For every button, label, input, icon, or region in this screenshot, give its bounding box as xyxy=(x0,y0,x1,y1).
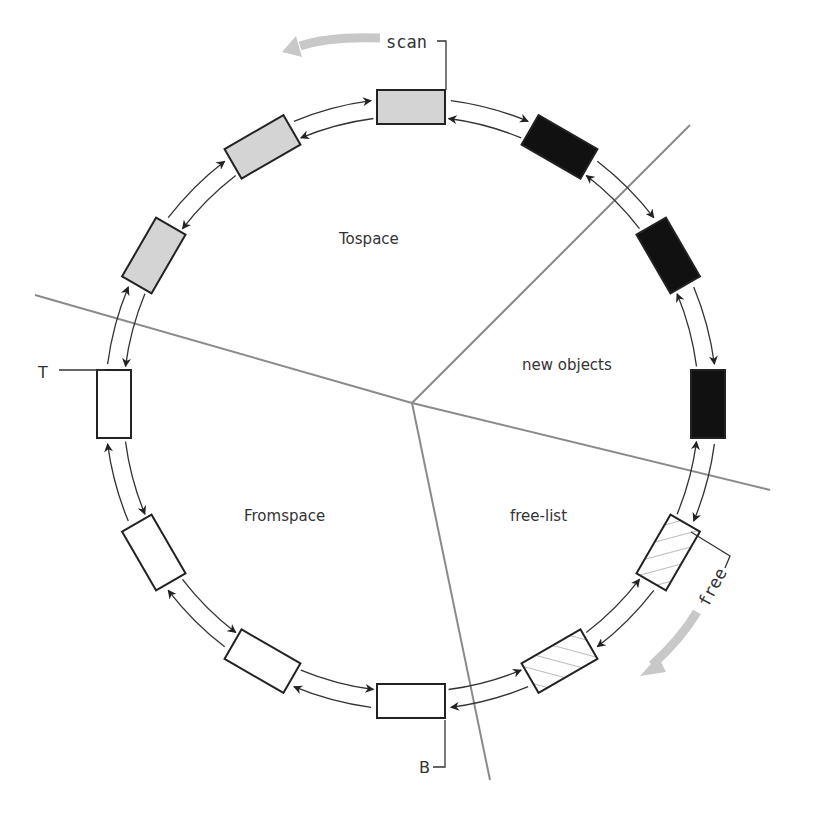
block-white-8 xyxy=(122,515,185,591)
link-arrow xyxy=(694,287,715,364)
scan-pointer: scan xyxy=(282,32,446,90)
free-label: free xyxy=(694,564,731,610)
region-label-free-list: free-list xyxy=(510,507,567,525)
region-label-tospace: Tospace xyxy=(338,230,399,248)
link-arrow xyxy=(183,579,236,632)
link-arrow xyxy=(597,590,654,647)
block-grey-10 xyxy=(122,218,185,294)
link-arrow xyxy=(183,176,236,229)
block-grey-11 xyxy=(225,115,301,178)
link-arrow xyxy=(677,442,696,515)
divider-free-fromspace xyxy=(412,403,490,780)
top-label: T xyxy=(37,363,48,382)
link-arrow xyxy=(126,442,145,515)
block-white-7 xyxy=(225,629,301,692)
link-arrow xyxy=(301,670,374,689)
block-white-9 xyxy=(97,370,131,438)
link-arrow xyxy=(586,579,639,632)
block-black-2 xyxy=(636,218,699,294)
link-arrow xyxy=(294,687,371,708)
link-arrow xyxy=(108,444,129,521)
link-arrow xyxy=(694,444,715,521)
block-hatched-5 xyxy=(522,629,598,692)
region-label-fromspace: Fromspace xyxy=(244,507,325,525)
link-arrow xyxy=(449,670,522,689)
bottom-pointer: B xyxy=(419,720,445,777)
link-arrow xyxy=(451,101,528,122)
bottom-leader-line xyxy=(433,720,445,767)
link-arrow xyxy=(301,119,374,138)
region-label-new-objects: new objects xyxy=(522,356,612,374)
free-motion-arrow-icon xyxy=(652,612,697,665)
scan-motion-arrow-icon xyxy=(300,38,380,46)
link-arrow xyxy=(126,294,145,367)
link-arrow xyxy=(451,687,528,708)
link-arrow xyxy=(449,119,522,138)
block-white-6 xyxy=(377,684,445,718)
block-grey-0 xyxy=(377,90,445,124)
block-hatched-4 xyxy=(636,515,699,591)
link-arrow xyxy=(294,101,371,122)
divider-tospace-fromspace xyxy=(35,295,412,403)
link-arrow xyxy=(168,590,225,647)
link-arrow xyxy=(108,287,129,364)
bottom-label: B xyxy=(419,758,430,777)
block-black-3 xyxy=(691,370,725,438)
top-pointer: T xyxy=(37,363,105,382)
scan-label: scan xyxy=(386,32,427,52)
block-black-1 xyxy=(522,115,598,178)
scan-leader-line xyxy=(437,41,446,90)
link-arrow xyxy=(168,161,225,218)
treadmill-diagram: Tospace new objects free-list Fromspace … xyxy=(0,0,819,819)
scan-arrowhead-icon xyxy=(282,36,302,57)
link-arrow xyxy=(677,294,696,367)
